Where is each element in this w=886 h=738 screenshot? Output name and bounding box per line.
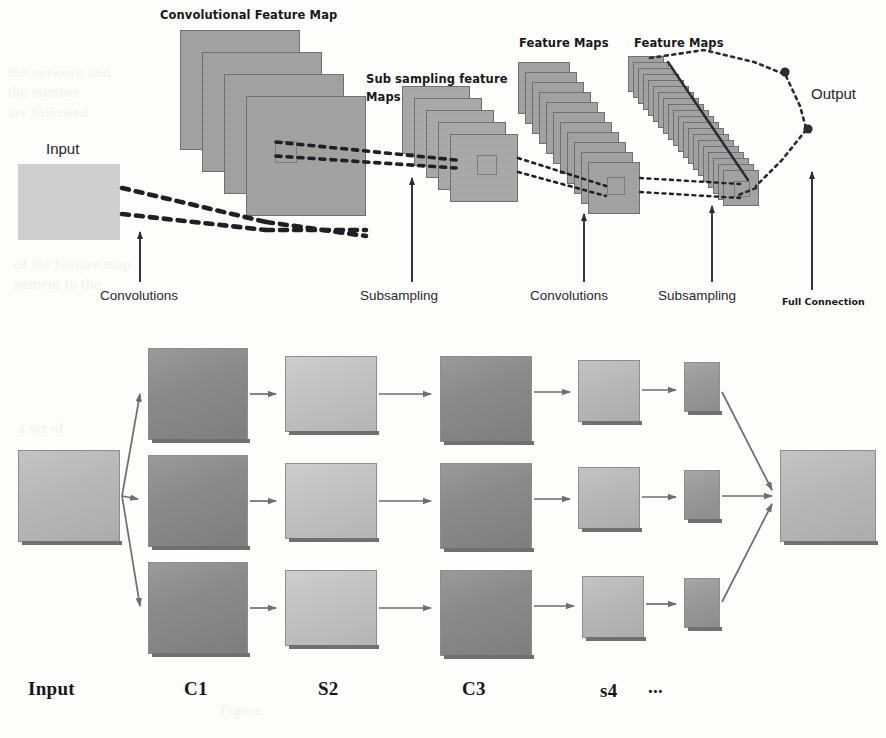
receptive-field-square-2 [477,155,497,175]
axis-label-convolutions-2: Convolutions [530,288,608,303]
label-convolutional-feature-map: Convolutional Feature Map [160,8,337,22]
c1-box-2 [148,455,248,547]
receptive-field-square-3 [607,177,625,195]
label-feature-maps-1: Feature Maps [519,36,609,50]
label-top-input: Input [46,140,79,157]
output-node-1 [780,67,789,76]
s2-box-1 [285,356,377,432]
fmap2-plane-1 [723,170,759,206]
small-box-2 [684,470,720,520]
label-sub-sampling-feature-maps-line1: Sub sampling feature [366,72,508,86]
stage-label-s2: S2 [318,678,339,700]
c3-box-3 [440,570,532,656]
stage-label-input: Input [28,678,75,700]
c3-box-1 [440,356,532,442]
label-sub-sampling-feature-maps-line2: Maps [366,90,401,104]
s2-box-3 [285,570,377,646]
axis-label-full-connection: Full Connection [782,296,865,307]
small-box-3 [684,578,720,628]
c1-box-3 [148,562,248,654]
s2-box-2 [285,463,377,539]
stage-label-c3: C3 [462,678,486,700]
stage-label-ellipsis: ... [648,676,663,698]
stage-label-s4: s4 [600,680,618,702]
bottom-input-box [18,450,120,542]
fmap1-plane-1 [588,162,640,214]
ghost-text-d: Figure [220,700,262,720]
c3-box-2 [440,463,532,549]
s4-box-1 [578,360,640,422]
stage-label-c1: C1 [184,678,208,700]
output-node-2 [803,124,812,133]
figure-canvas: the network and the number are followed … [0,0,886,738]
subsample-plane-1 [450,134,518,202]
s4-box-3 [582,576,644,638]
s4-box-2 [578,467,640,529]
bottom-output-box [780,450,876,542]
receptive-field-square-1 [275,141,297,163]
receptive-field-square-4 [734,181,750,197]
c1-box-1 [148,348,248,440]
axis-label-subsampling-2: Subsampling [658,288,736,303]
top-input-image [18,164,120,240]
conv-plane-1 [246,96,366,216]
axis-label-convolutions-1: Convolutions [100,288,178,303]
label-top-output: Output [811,85,856,102]
ghost-text-a: the network and the number are followed [8,62,111,122]
ghost-text-c: a set of [18,418,65,438]
axis-label-subsampling-1: Subsampling [360,288,438,303]
label-feature-maps-2: Feature Maps [634,36,724,50]
small-box-1 [684,362,720,412]
